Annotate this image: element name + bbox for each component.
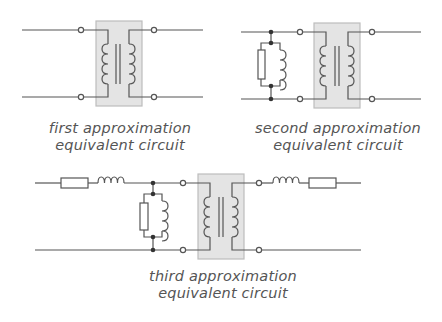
caption-line-1: third approximation xyxy=(138,268,308,285)
caption-line-1: second approximation xyxy=(253,120,423,137)
third-approximation-circuit xyxy=(35,174,361,259)
second-approximation-caption: second approximation equivalent circuit xyxy=(253,120,423,154)
shunt-resistor-icon xyxy=(258,50,265,79)
caption-line-2: equivalent circuit xyxy=(253,137,423,154)
junction-dot xyxy=(269,84,274,89)
first-approximation-caption: first approximation equivalent circuit xyxy=(40,120,200,154)
terminal-icon xyxy=(256,247,261,252)
terminal-icon xyxy=(297,96,302,101)
series-resistor-secondary-icon xyxy=(309,178,336,188)
caption-line-2: equivalent circuit xyxy=(40,137,200,154)
terminal-icon xyxy=(78,27,83,32)
ideal-transformer-box xyxy=(198,174,244,259)
junction-dot xyxy=(151,248,156,253)
ideal-transformer-box xyxy=(96,21,142,106)
terminal-icon xyxy=(78,94,83,99)
shunt-inductor-icon xyxy=(280,50,286,90)
series-inductor-secondary-icon xyxy=(273,177,299,183)
caption-line-1: first approximation xyxy=(40,120,200,137)
junction-dot xyxy=(151,192,156,197)
shunt-inductor-icon xyxy=(162,201,168,241)
terminal-icon xyxy=(297,29,302,34)
first-approximation-circuit xyxy=(22,21,203,106)
terminal-icon xyxy=(151,94,156,99)
ideal-transformer-box xyxy=(314,23,360,108)
junction-dot xyxy=(269,30,274,35)
caption-line-2: equivalent circuit xyxy=(138,285,308,302)
series-inductor-primary-icon xyxy=(98,177,124,183)
terminal-icon xyxy=(180,247,185,252)
junction-dot xyxy=(151,235,156,240)
terminal-icon xyxy=(180,180,185,185)
terminal-icon xyxy=(151,27,156,32)
shunt-resistor-icon xyxy=(140,203,148,230)
terminal-icon xyxy=(369,29,374,34)
second-approximation-circuit xyxy=(241,23,421,108)
junction-dot xyxy=(269,41,274,46)
third-approximation-caption: third approximation equivalent circuit xyxy=(138,268,308,302)
terminal-icon xyxy=(256,180,261,185)
terminal-icon xyxy=(369,96,374,101)
junction-dot xyxy=(151,181,156,186)
junction-dot xyxy=(269,97,274,102)
series-resistor-primary-icon xyxy=(61,178,88,188)
